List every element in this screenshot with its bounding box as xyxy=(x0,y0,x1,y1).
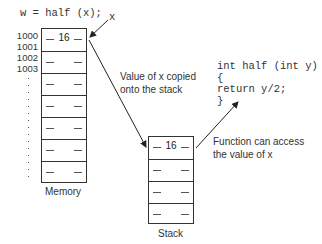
arrows-layer xyxy=(0,0,322,244)
arrow-var-to-memory xyxy=(90,20,108,37)
arrow-memory-to-stack xyxy=(89,40,146,147)
arrow-stack-to-function xyxy=(196,102,238,148)
